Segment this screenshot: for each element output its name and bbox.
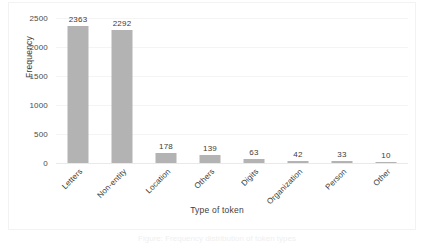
bar [68,26,89,163]
x-axis-tick-label: Others [193,167,217,191]
x-axis-ticks: LettersNon-entityLocationOthersDigitsOrg… [56,165,408,205]
bar [244,159,265,163]
y-axis-tick-label: 0 [43,159,48,168]
y-axis-ticks: 25002000150010005000 [8,18,52,163]
bar-value-label: 42 [293,150,302,159]
bar-group: 139 [188,18,232,163]
x-axis-tick-label: Location [144,167,172,195]
bar-group: 63 [232,18,276,163]
gridline [56,163,408,164]
bar [288,161,309,163]
x-axis-tick-label: Person [324,167,349,192]
bar-group: 178 [144,18,188,163]
plot-area: 2363229217813963423310 [56,18,408,163]
figure-caption: Figure: Frequency distribution of token … [0,234,434,243]
y-axis-tick-label: 1500 [29,72,48,81]
x-axis-tick: Others [188,165,232,205]
x-axis-tick: Person [320,165,364,205]
y-axis-tick-label: 1000 [29,101,48,110]
bar [112,30,133,163]
x-axis-title: Type of token [0,205,434,215]
bar-group: 2292 [100,18,144,163]
bar-group: 33 [320,18,364,163]
x-axis-tick: Non-entity [100,165,144,205]
bar [200,155,221,163]
x-axis-tick-label: Non-entity [96,167,129,200]
bar-value-label: 63 [249,148,258,157]
bar-value-label: 33 [337,150,346,159]
bar-group: 10 [364,18,408,163]
bar [156,153,177,163]
x-axis-tick: Letters [56,165,100,205]
y-axis-tick-label: 500 [34,130,48,139]
y-axis-tick-label: 2500 [29,14,48,23]
bar-value-label: 2363 [69,15,88,24]
bar-group: 42 [276,18,320,163]
y-axis-tick-label: 2000 [29,43,48,52]
bar-value-label: 178 [159,142,173,151]
x-axis-tick-label: Letters [60,167,84,191]
x-axis-tick-label: Other [371,167,392,188]
bar [376,162,397,163]
x-axis-tick: Other [364,165,408,205]
bar-value-label: 2292 [113,19,132,28]
chart-screenshot: Frequency 25002000150010005000 236322921… [0,0,434,243]
bar [332,161,353,163]
x-axis-tick: Location [144,165,188,205]
x-axis-tick-label: Digits [239,167,260,188]
bar-value-label: 10 [381,151,390,160]
x-axis-tick: Organization [276,165,320,205]
bar-value-label: 139 [203,144,217,153]
bar-group: 2363 [56,18,100,163]
